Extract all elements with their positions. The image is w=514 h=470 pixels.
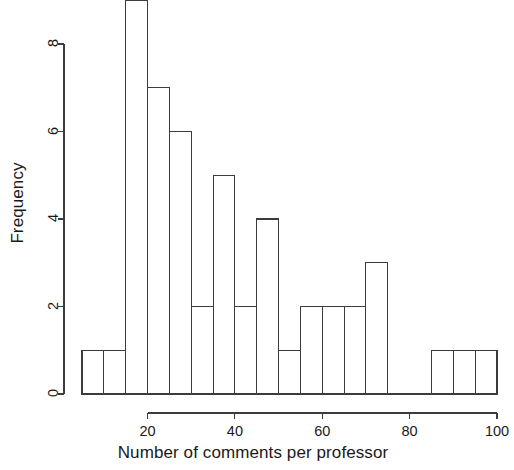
x-axis (82, 394, 497, 419)
y-axis-title: Frequency (8, 123, 28, 283)
x-tick-label: 80 (388, 423, 432, 439)
histogram-bar (191, 307, 213, 395)
histogram-bar (475, 350, 497, 394)
y-tick-label: 2 (45, 291, 61, 321)
histogram-bar (279, 350, 301, 394)
histogram-bar (126, 0, 148, 394)
histogram-bar (213, 175, 235, 394)
histogram-bar (82, 350, 104, 394)
histogram-bar (148, 88, 170, 394)
histogram-bar (169, 132, 191, 395)
histogram-bar (322, 307, 344, 395)
histogram-bar (453, 350, 475, 394)
x-tick-label: 40 (213, 423, 257, 439)
x-tick-label: 60 (300, 423, 344, 439)
y-tick-label: 8 (45, 28, 61, 58)
histogram-bar (366, 263, 388, 394)
histogram-bar (104, 350, 126, 394)
y-tick-label: 0 (45, 378, 61, 408)
histogram-bar (300, 307, 322, 395)
y-tick-label: 6 (45, 116, 61, 146)
x-axis-title: Number of comments per professor (0, 443, 506, 463)
y-tick-label: 4 (45, 203, 61, 233)
histogram-bar (257, 219, 279, 394)
histogram-bars (82, 0, 497, 394)
x-tick-label: 100 (475, 423, 514, 439)
histogram-bar (431, 350, 453, 394)
x-tick-label: 20 (126, 423, 170, 439)
histogram-bar (344, 307, 366, 395)
histogram-bar (235, 307, 257, 395)
